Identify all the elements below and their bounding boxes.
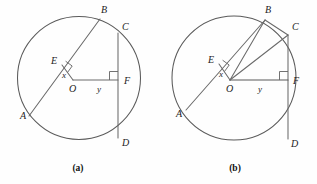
geometry-diagram-svg: A B C D E F O x y (a) xyxy=(0,0,317,184)
point-label-o-a: O xyxy=(69,83,76,94)
measure-label-x-b: x xyxy=(218,69,223,79)
point-label-a-b: A xyxy=(175,108,183,119)
point-label-c-a: C xyxy=(122,21,129,32)
chord-ab-b xyxy=(186,20,265,110)
panel-caption-a: (a) xyxy=(72,163,83,174)
point-label-e-a: E xyxy=(50,55,57,66)
circle-a xyxy=(18,17,141,140)
point-label-e-b: E xyxy=(207,54,214,65)
panel-a: A B C D E F O x y (a) xyxy=(18,4,141,174)
measure-label-y-b: y xyxy=(257,84,262,94)
point-label-d-a: D xyxy=(121,137,130,148)
point-label-d-b: D xyxy=(290,138,299,149)
point-label-b-b: B xyxy=(265,4,271,15)
point-label-f-b: F xyxy=(292,75,300,86)
chord-ab-a xyxy=(29,19,100,116)
circle-b xyxy=(172,16,296,140)
point-label-o-b: O xyxy=(226,83,233,94)
point-label-c-b: C xyxy=(292,21,299,32)
radius-ob-b xyxy=(230,20,265,80)
measure-label-x-a: x xyxy=(61,70,66,80)
panel-caption-b: (b) xyxy=(229,163,241,174)
right-angle-at-f-b xyxy=(280,72,289,81)
geometry-figure-root: A B C D E F O x y (a) xyxy=(0,0,317,184)
panel-b: A B C D E F O x y (b) xyxy=(172,4,300,174)
right-angle-at-f-a xyxy=(110,72,119,81)
point-label-b-a: B xyxy=(101,4,107,15)
point-label-f-a: F xyxy=(123,75,131,86)
point-label-a-a: A xyxy=(19,110,27,121)
measure-label-y-a: y xyxy=(96,84,101,94)
